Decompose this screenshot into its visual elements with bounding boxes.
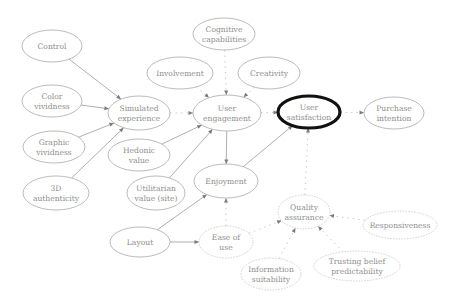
node-quality-assurance: Qualityassurance [278,195,330,229]
node-label: Responsiveness [370,221,431,230]
node-trusting-belief-predictability: Trusting beliefpredictability [314,251,400,281]
node-label: experience [118,114,161,123]
node-label: use [219,243,233,252]
node-label: Simulated [119,104,158,113]
edge-hedonic-value-to-user-engagement [162,125,202,144]
node-utilitarian-value: Utilitarianvalue (site) [127,176,185,210]
arrowhead-icon [277,220,282,224]
edge-trusting-belief-predictability-to-quality-assurance [318,226,343,252]
node-label: Enjoyment [205,177,246,186]
node-label: vividness [35,148,72,157]
arrowhead-icon [195,240,200,244]
arrowhead-icon [359,111,364,115]
arrowhead-icon [244,93,249,98]
node-label: Utilitarian [136,184,176,193]
arrowhead-icon [224,159,228,164]
node-label: assurance [284,213,324,222]
node-label: 3D [51,184,62,193]
node-label: Cognitive [206,25,243,34]
node-user-engagement: Userengagement [193,95,261,131]
arrowhead-icon [224,198,228,203]
node-involvement: Involvement [147,57,213,89]
node-control: Control [22,30,82,62]
node-cognitive-capabilities: Cognitivecapabilities [193,18,255,50]
node-color-vividness: Colorvividness [22,85,82,117]
node-graphic-vividness: Graphicvividness [23,131,85,163]
node-ease-of-use: Ease ofuse [199,226,253,258]
arrowhead-icon [318,226,323,231]
diagram-canvas: ControlColorvividnessGraphicvividness3Da… [0,0,460,301]
node-label: vividness [33,102,70,111]
node-label: Layout [127,238,153,247]
node-label: Ease of [212,233,241,242]
node-purchase-intention: Purchaseintention [364,97,424,129]
node-information-suitability: Informationsuitability [241,258,301,290]
node-label: Purchase [376,104,412,113]
node-creativity: Creativity [238,57,300,89]
research-model-diagram: ControlColorvividnessGraphicvividness3Da… [0,0,460,301]
node-user-satisfaction: Usersatisfaction [278,96,340,128]
node-label: Information [248,265,294,274]
node-label: predictability [331,267,383,276]
node-simulated-experience: Simulatedexperience [108,96,170,130]
node-label: Involvement [156,69,204,78]
nodes-layer: ControlColorvividnessGraphicvividness3Da… [22,18,437,290]
node-label: intention [377,114,412,123]
node-label: Quality [290,203,319,212]
arrowhead-icon [292,228,296,233]
node-label: suitability [252,275,291,284]
node-label: User [218,104,237,113]
node-label: satisfaction [287,113,331,122]
node-label: Control [38,42,68,51]
node-hedonic-value: Hedonicvalue [108,139,170,171]
arrowhead-icon [329,214,334,218]
edge-ease-of-use-to-quality-assurance [249,221,282,234]
arrowhead-icon [116,95,121,99]
node-label: Color [41,92,62,101]
node-label: value [128,156,150,165]
node-responsiveness: Responsiveness [363,211,437,239]
edge-responsiveness-to-quality-assurance [329,215,365,220]
node-authenticity-3d: 3Dauthenticity [23,176,89,210]
arrowhead-icon [189,111,194,115]
node-label: capabilities [202,35,246,44]
edge-cognitive-capabilities-to-user-engagement [225,50,227,95]
arrowhead-icon [202,195,207,199]
node-label: engagement [203,114,251,123]
node-label: Trusting belief [329,257,387,266]
edge-enjoyment-to-user-satisfaction [243,126,292,167]
node-label: authenticity [33,194,80,203]
node-label: User [300,103,319,112]
node-layout: Layout [110,227,170,257]
edge-graphic-vividness-to-simulated-experience [79,123,114,137]
node-label: Graphic [39,138,70,147]
edge-information-suitability-to-quality-assurance [279,228,295,259]
arrowhead-icon [224,90,228,95]
node-enjoyment: Enjoyment [194,164,258,198]
node-label: Creativity [250,69,289,78]
node-label: value (site) [134,194,178,203]
edge-quality-assurance-to-user-satisfaction [305,128,308,195]
node-label: Hedonic [123,146,155,155]
